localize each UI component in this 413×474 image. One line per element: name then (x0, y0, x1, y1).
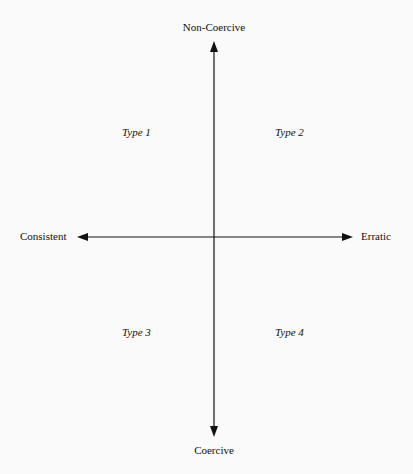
arrow-up-icon (210, 41, 218, 52)
axis-label-bottom: Coercive (194, 444, 234, 456)
quadrant-type-2: Type 2 (275, 126, 304, 138)
quadrant-type-4: Type 4 (275, 326, 304, 338)
arrow-right-icon (342, 233, 353, 241)
axis-label-top: Non-Coercive (183, 21, 245, 33)
axis-label-left: Consistent (20, 230, 66, 242)
arrow-left-icon (77, 233, 88, 241)
quadrant-type-3: Type 3 (122, 326, 151, 338)
quadrant-type-1: Type 1 (122, 126, 151, 138)
axis-label-right: Erratic (361, 230, 391, 242)
arrow-down-icon (210, 426, 218, 437)
